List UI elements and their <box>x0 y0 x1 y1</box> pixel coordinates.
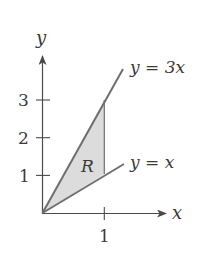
curve-label-y-equals-3x: y = 3x <box>129 57 185 77</box>
y-axis-label: y <box>35 27 47 48</box>
y-tick-label-1: 1 <box>19 166 30 186</box>
x-axis-label: x <box>172 202 182 223</box>
y-tick-label-2: 2 <box>18 128 29 148</box>
region-label-r: R <box>80 156 94 176</box>
x-tick-label-1: 1 <box>99 226 110 246</box>
region-diagram: y x 3 2 1 1 y = 3x y = x R <box>0 0 202 253</box>
y-tick-label-3: 3 <box>18 90 29 110</box>
curve-label-y-equals-x: y = x <box>129 152 175 172</box>
curve-y-equals-3x <box>43 69 124 213</box>
